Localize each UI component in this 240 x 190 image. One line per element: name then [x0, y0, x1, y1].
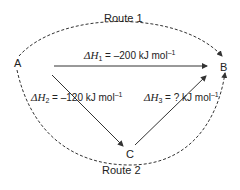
dh3-arrow — [135, 76, 206, 145]
route2-label: Route 2 — [102, 164, 141, 176]
dh3-label: ΔH3 = ? kJ mol–1 — [144, 89, 219, 107]
dh2-arrow — [52, 75, 123, 146]
node-b: B — [220, 61, 227, 73]
route1-label: Route 1 — [104, 12, 143, 24]
dh1-label: ΔH1 = –200 kJ mol–1 — [84, 47, 175, 65]
dh2-label: ΔH2 = –120 kJ mol–1 — [31, 89, 122, 107]
route2-dashed-arrow — [17, 70, 225, 165]
node-a: A — [14, 57, 21, 69]
node-c: C — [126, 148, 134, 160]
